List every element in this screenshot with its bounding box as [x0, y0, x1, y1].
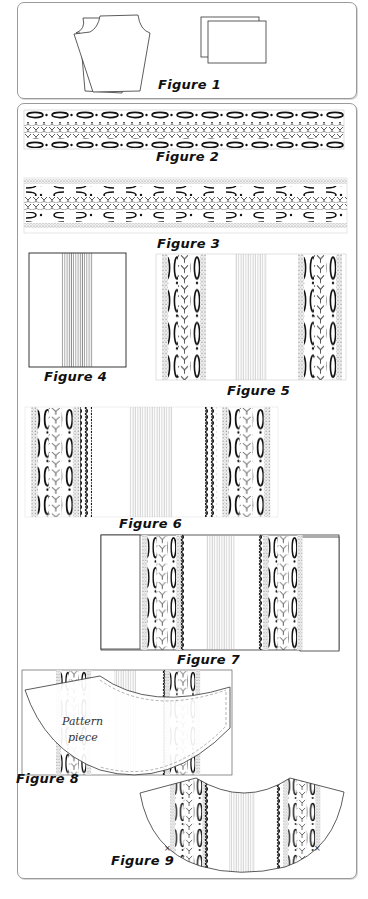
- figure-3-lace-strip: [24, 178, 347, 233]
- figure-8-pattern-layout: Pattern piece: [22, 670, 232, 775]
- cut-mark-left: ×: [164, 844, 171, 853]
- figure-3-caption: Figure 3: [157, 236, 220, 251]
- figure-8-caption: Figure 8: [16, 771, 79, 786]
- figure-7-lace-panel: [101, 535, 339, 651]
- pattern-label-line1: Pattern: [61, 715, 103, 728]
- figure-7-caption: Figure 7: [177, 652, 240, 667]
- figure-5-caption: Figure 5: [227, 383, 290, 398]
- figure-2-lace-strip: [24, 110, 344, 149]
- figure-6-lace-panel: [25, 407, 278, 517]
- figure-9-caption: Figure 9: [111, 853, 174, 868]
- figure-4-caption: Figure 4: [44, 369, 107, 384]
- figure-6-caption: Figure 6: [119, 516, 182, 531]
- cut-mark-right: ×: [314, 844, 321, 853]
- figure-4-pintuck-fabric: [29, 253, 126, 367]
- figures-illustrations: Pattern piece × ×: [0, 0, 368, 899]
- figure-5-lace-panel: [156, 254, 346, 380]
- pattern-label-line2: piece: [68, 731, 98, 744]
- figure-2-caption: Figure 2: [156, 149, 219, 164]
